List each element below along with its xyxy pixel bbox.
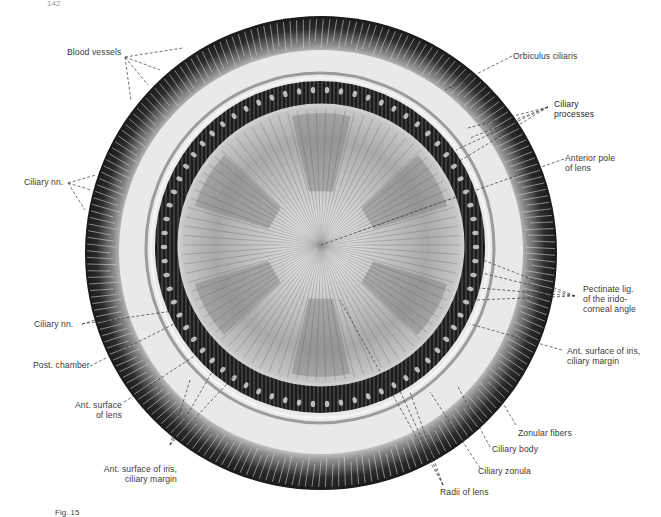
label-line: of lens (565, 163, 615, 173)
label-ant-surface-lens: Ant. surface of lens (72, 400, 122, 420)
label-line: Ant. surface of iris, (95, 464, 177, 474)
label-post-chamber: Post. chamber (33, 360, 90, 370)
label-ciliary-processes: Ciliary processes (554, 99, 594, 119)
label-blood-vessels: Blood vessels (67, 47, 121, 57)
label-line: Ant. surface of iris, (567, 346, 640, 356)
label-ant-surface-iris-left: Ant. surface of iris, ciliary margin (95, 464, 177, 484)
label-line: ciliary margin (567, 356, 640, 366)
label-line: Ciliary (554, 99, 594, 109)
figure-caption-fragment: Fig. 15 (55, 509, 79, 517)
label-line: ciliary margin (95, 474, 177, 484)
label-line: of the irido- (583, 294, 636, 304)
label-line: processes (554, 109, 594, 119)
label-pectinate-ligament: Pectinate lig. of the irido- corneal ang… (583, 284, 636, 314)
label-anterior-pole-of-lens: Anterior pole of lens (565, 153, 615, 173)
label-orbiculus-ciliaris: Orbiculus ciliaris (513, 51, 577, 61)
label-line: Anterior pole (565, 153, 615, 163)
label-ciliary-zonula: Ciliary zonula (478, 466, 531, 476)
label-ant-surface-iris-right: Ant. surface of iris, ciliary margin (567, 346, 640, 366)
label-line: Ant. surface (72, 400, 122, 410)
label-line: of lens (72, 410, 122, 420)
label-ciliary-nn-upper: Ciliary nn. (24, 177, 63, 187)
label-line: corneal angle (583, 304, 636, 314)
label-line: Pectinate lig. (583, 284, 636, 294)
label-ciliary-nn-lower: Ciliary nn. (34, 319, 73, 329)
label-radii-of-lens: Radii of lens (440, 487, 489, 497)
label-ciliary-body: Ciliary body (492, 444, 538, 454)
label-zonular-fibers: Zonular fibers (518, 428, 572, 438)
